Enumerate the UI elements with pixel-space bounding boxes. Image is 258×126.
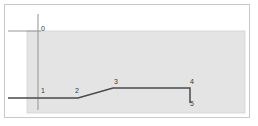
point-label-3: 3 bbox=[114, 78, 118, 85]
shaded-region bbox=[27, 31, 245, 113]
point-label-2: 2 bbox=[75, 87, 79, 94]
point-label-4: 4 bbox=[190, 78, 194, 85]
point-label-1: 1 bbox=[41, 87, 45, 94]
diagram-canvas: 0 1 2 3 4 5 bbox=[0, 0, 258, 126]
point-label-5: 5 bbox=[190, 100, 194, 107]
diagram-vector-layer bbox=[0, 0, 258, 126]
point-label-0: 0 bbox=[41, 25, 45, 32]
